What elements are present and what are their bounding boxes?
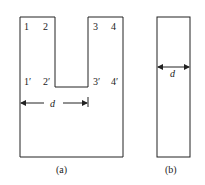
label-3-prime: 3′ — [93, 76, 100, 87]
u-shape-outline — [20, 17, 123, 157]
label-1-prime: 1′ — [24, 76, 31, 87]
caption-b: (b) — [165, 164, 177, 176]
label-3: 3 — [93, 21, 98, 32]
dimension-label-d: d — [50, 98, 56, 109]
label-2: 2 — [43, 21, 48, 32]
figure-a: 1 2 3 4 1′ 2′ 3′ 4′ d (a) — [20, 17, 123, 176]
figure-b: d (b) — [157, 17, 190, 176]
dimension-label-d-b: d — [170, 68, 176, 79]
rect-outline — [157, 17, 190, 157]
label-1: 1 — [24, 21, 29, 32]
label-2-prime: 2′ — [43, 76, 50, 87]
label-4-prime: 4′ — [111, 76, 118, 87]
label-4: 4 — [111, 21, 116, 32]
caption-a: (a) — [56, 164, 67, 176]
diagram-canvas: 1 2 3 4 1′ 2′ 3′ 4′ d (a) d (b) — [0, 0, 205, 185]
